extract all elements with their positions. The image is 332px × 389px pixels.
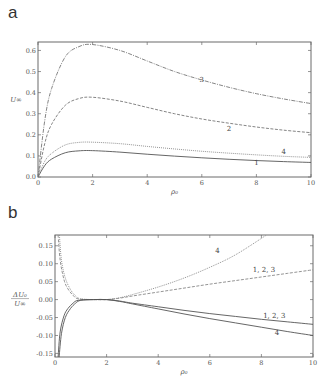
y-tick-label: 0.15: [39, 242, 53, 250]
y-axis-label-denominator: U∞: [14, 300, 26, 308]
x-tick-label: 0: [36, 179, 40, 187]
y-axis-label: U∞: [10, 96, 22, 104]
series-line-4: [59, 235, 266, 300]
series-label: 1, 2, 3: [253, 266, 275, 274]
y-tick-label: 0.1: [26, 152, 36, 160]
x-tick-label: 4: [145, 179, 149, 187]
y-tick-label: 0.2: [26, 131, 36, 139]
y-tick-label: 0.00: [39, 296, 53, 304]
series-line-1-2-3: [58, 299, 313, 357]
y-tick-label: 0.3: [26, 110, 36, 118]
y-tick-label: -0.15: [36, 350, 53, 358]
y-tick-label: 0.6: [26, 47, 36, 55]
series-line-1: [38, 151, 311, 177]
x-tick-label: 4: [156, 359, 160, 367]
series-line-2: [38, 97, 311, 177]
plot-frame: [55, 235, 313, 357]
x-tick-label: 8: [254, 179, 258, 187]
series-label: 4: [281, 148, 286, 156]
plot-frame: [38, 42, 311, 177]
x-tick-label: 10: [309, 359, 317, 367]
x-tick-label: 10: [307, 179, 315, 187]
x-tick-label: 8: [259, 359, 263, 367]
y-tick-label: 0.4: [26, 89, 36, 97]
series-label: 3: [200, 76, 204, 84]
y-tick-label: -0.05: [36, 314, 53, 322]
series-label: 1, 2, 3: [263, 312, 285, 320]
series-line-4: [38, 142, 311, 177]
series-label: 2: [227, 125, 231, 133]
series-label: 1: [254, 159, 258, 167]
x-tick-label: 2: [105, 359, 109, 367]
figure: a 02468100.00.10.20.30.40.50.6ρ₀U∞1423 b…: [0, 0, 332, 389]
panel-a-label: a: [8, 3, 18, 22]
series-label: 4: [275, 329, 280, 337]
series-line-4: [59, 299, 313, 357]
panel-a-plot: 02468100.00.10.20.30.40.50.6ρ₀U∞1423: [10, 42, 315, 196]
y-tick-label: 0.0: [26, 173, 36, 181]
y-axis-label-numerator: ΔU₀: [12, 291, 27, 299]
panel-b-plot: 0246810-0.15-0.10-0.050.000.050.100.15ρ₀…: [11, 235, 317, 376]
x-axis-label: ρ₀: [170, 188, 178, 196]
x-tick-label: 6: [200, 179, 204, 187]
series-label: 4: [215, 247, 220, 255]
y-tick-label: -0.10: [36, 332, 53, 340]
x-tick-label: 6: [208, 359, 212, 367]
panel-b-label: b: [8, 203, 17, 222]
x-axis-label: ρ₀: [180, 368, 188, 376]
x-tick-label: 0: [53, 359, 57, 367]
y-tick-label: 0.05: [39, 278, 53, 286]
y-tick-label: 0.5: [26, 68, 36, 76]
x-tick-label: 2: [91, 179, 95, 187]
y-tick-label: 0.10: [39, 260, 53, 268]
series-line-3: [38, 44, 311, 177]
